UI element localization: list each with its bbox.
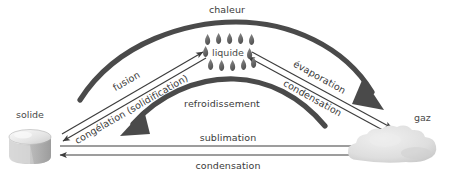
condensation-solide-arrow-group: condensation [60,155,396,171]
sublimation-arrow-group: sublimation [60,132,396,146]
solide-label: solide [16,109,44,120]
states-of-matter-diagram: chaleur refroidissement fusion congélati… [0,0,455,173]
droplet-7 [247,48,252,59]
chaleur-label: chaleur [209,4,245,15]
droplet-9 [219,60,224,71]
droplet-8 [208,59,213,70]
gas-cloud-icon [348,125,436,162]
ice-cube-icon [9,130,51,165]
refroidissement-label: refroidissement [184,98,260,109]
droplet-6 [203,46,208,57]
condensation-solide-label: condensation [195,160,260,171]
sublimation-label: sublimation [200,132,257,143]
diagram-canvas: chaleur refroidissement fusion congélati… [0,0,455,173]
gas-cloud-highlight [369,133,401,147]
fusion-label: fusion [111,69,142,93]
droplet-4 [238,33,243,44]
gas-cloud-shadow [401,147,431,159]
ice-cube-highlight [14,132,32,139]
droplet-10 [230,60,235,71]
gaz-label: gaz [414,112,431,123]
droplet-2 [216,33,221,44]
liquide-label: liquide [212,47,244,58]
droplet-11 [241,59,246,70]
droplet-1 [205,34,210,45]
droplet-3 [227,33,232,44]
droplet-5 [249,34,254,45]
